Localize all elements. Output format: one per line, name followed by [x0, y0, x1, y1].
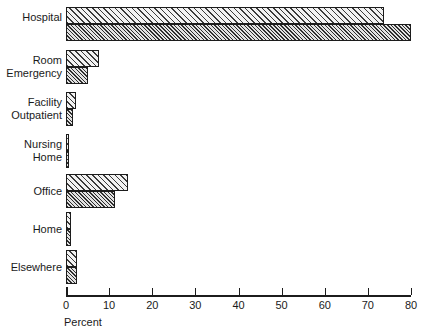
- bar-facility-outpatient-lower: [66, 109, 73, 126]
- x-tick-40: [239, 288, 240, 295]
- category-label-text: Hospital: [0, 11, 62, 24]
- bar-home-lower: [66, 229, 71, 246]
- x-tick-70: [368, 288, 369, 295]
- bar-office-upper: [66, 174, 128, 191]
- category-label-text: Elsewhere: [0, 261, 62, 274]
- x-tick-label-60: 60: [312, 299, 338, 312]
- x-tick-label-30: 30: [182, 299, 208, 312]
- x-tick-10: [109, 288, 110, 295]
- bar-elsewhere-upper: [66, 250, 77, 267]
- category-label-text: Home: [0, 223, 62, 236]
- bar-hospital-lower: [66, 24, 411, 41]
- plot-area: [66, 0, 412, 296]
- x-axis-line: [66, 295, 411, 297]
- category-label-text: Facility Outpatient: [0, 96, 62, 121]
- x-tick-20: [152, 288, 153, 295]
- bar-facility-outpatient-upper: [66, 92, 76, 109]
- bar-room-emergency-upper: [66, 50, 99, 67]
- bar-elsewhere-lower: [66, 267, 77, 284]
- x-tick-label-70: 70: [355, 299, 381, 312]
- x-tick-50: [282, 288, 283, 295]
- bar-room-emergency-lower: [66, 67, 88, 84]
- x-tick-label-20: 20: [139, 299, 165, 312]
- x-tick-0: [66, 288, 67, 295]
- category-label-text: Room Emergency: [0, 54, 62, 79]
- x-tick-60: [325, 288, 326, 295]
- x-tick-30: [195, 288, 196, 295]
- bar-nursing-home-lower: [66, 151, 69, 168]
- category-label-text: Nursing Home: [0, 138, 62, 163]
- x-tick-label-40: 40: [226, 299, 252, 312]
- x-tick-label-0: 0: [53, 299, 79, 312]
- bar-hospital-upper: [66, 7, 384, 24]
- x-tick-label-80: 80: [398, 299, 424, 312]
- x-tick-80: [411, 288, 412, 295]
- bar-home-upper: [66, 212, 71, 229]
- bar-chart: Hospital Room Emergency Facility Outpati…: [0, 0, 424, 336]
- x-tick-label-10: 10: [96, 299, 122, 312]
- x-tick-label-50: 50: [269, 299, 295, 312]
- bar-nursing-home-upper: [66, 134, 69, 151]
- category-label-text: Office: [0, 185, 62, 198]
- x-axis-label: Percent: [64, 316, 102, 329]
- bar-office-lower: [66, 191, 115, 208]
